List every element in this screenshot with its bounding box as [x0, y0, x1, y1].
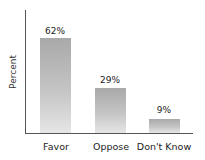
- bar-chart: Percent 62% Favor 29% Oppose 9% Don't Kn…: [0, 0, 205, 160]
- y-axis-label: Percent: [8, 55, 18, 89]
- bar-dont-know: [149, 119, 180, 133]
- bar-value-dont-know: 9%: [144, 105, 184, 115]
- bar-oppose: [95, 88, 126, 133]
- bar-value-favor: 62%: [35, 26, 75, 36]
- category-label-oppose: Oppose: [81, 141, 141, 152]
- category-label-dont-know: Don't Know: [134, 141, 194, 152]
- category-label-favor: Favor: [26, 141, 86, 152]
- y-axis-line: [25, 10, 26, 134]
- bar-favor: [40, 38, 71, 133]
- bar-value-oppose: 29%: [90, 75, 130, 85]
- x-axis-line: [25, 133, 193, 134]
